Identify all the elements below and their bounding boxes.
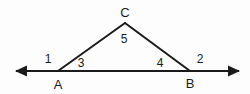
vertex-label-c: C [120, 5, 129, 20]
angle-label-5: 5 [121, 32, 128, 46]
angle-label-3: 3 [78, 56, 85, 70]
side-ac [58, 23, 125, 71]
geometry-figure: C A B 1 3 5 4 2 [0, 0, 250, 94]
baseline-group [15, 66, 240, 77]
angle-label-2: 2 [197, 52, 204, 66]
left-arrowhead-icon [15, 66, 27, 77]
figure-canvas: C A B 1 3 5 4 2 [0, 0, 250, 94]
angle-label-1: 1 [45, 52, 52, 66]
right-arrowhead-icon [228, 66, 240, 77]
vertex-labels-group: C A B [54, 5, 195, 92]
vertex-label-b: B [186, 76, 195, 91]
angle-label-4: 4 [157, 56, 164, 70]
vertex-label-a: A [54, 77, 63, 92]
